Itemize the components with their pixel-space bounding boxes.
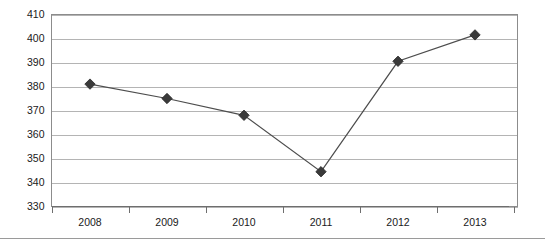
y-tick-label: 340 [27, 176, 45, 188]
y-tick-label: 360 [27, 128, 45, 140]
y-tick-label: 350 [27, 152, 45, 164]
x-tick-label: 2009 [155, 216, 179, 228]
x-tick-label: 2013 [463, 216, 487, 228]
line-chart-figure: 410400390380370360350340330 200820092010… [0, 0, 545, 245]
chart-canvas: 410400390380370360350340330 200820092010… [0, 0, 545, 245]
y-tick-label: 370 [27, 104, 45, 116]
y-tick-label: 330 [27, 200, 45, 212]
y-tick-label: 410 [27, 8, 45, 20]
chart-background [0, 0, 545, 245]
y-tick-label: 390 [27, 56, 45, 68]
x-tick-label: 2010 [232, 216, 256, 228]
x-tick-label: 2008 [78, 216, 102, 228]
y-tick-label: 380 [27, 80, 45, 92]
x-tick-label: 2011 [310, 216, 333, 228]
y-axis-tick-labels: 410400390380370360350340330 [27, 8, 45, 212]
y-tick-label: 400 [27, 32, 45, 44]
x-tick-label: 2012 [386, 216, 410, 228]
